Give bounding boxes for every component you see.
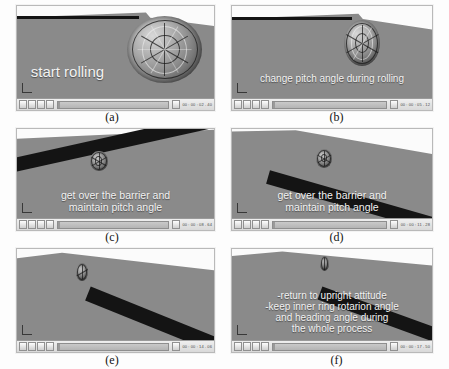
axis-triad-icon-f bbox=[237, 325, 247, 335]
panel-cell-b: change pitch angle during rolling 00 : 0… bbox=[224, 0, 449, 123]
player-controls-b[interactable]: 00 : 00 : 05 . 12 bbox=[232, 98, 432, 110]
simulation-panel-e[interactable]: 00 : 00 : 14 . 06 bbox=[16, 248, 215, 353]
panel-cell-e: 00 : 00 : 14 . 06 (e) bbox=[0, 243, 224, 369]
pause-button-f[interactable] bbox=[243, 342, 251, 351]
play-button-d[interactable] bbox=[234, 220, 242, 229]
progress-fill-c bbox=[58, 222, 60, 228]
player-controls-e[interactable]: 00 : 00 : 14 . 06 bbox=[17, 340, 214, 352]
play-button-e[interactable] bbox=[19, 342, 27, 351]
progress-fill-e bbox=[58, 344, 60, 350]
play-button-a[interactable] bbox=[19, 100, 27, 109]
viewport-c: get over the barrier and maintain pitch … bbox=[17, 129, 214, 219]
time-display-e: 00 : 00 : 14 . 06 bbox=[181, 344, 213, 350]
panel-cell-d: get over the barrier and maintain pitch … bbox=[224, 123, 449, 243]
simulation-panel-c[interactable]: get over the barrier and maintain pitch … bbox=[16, 128, 215, 231]
pause-button-d[interactable] bbox=[243, 220, 251, 229]
pause-button-e[interactable] bbox=[28, 342, 36, 351]
stop-button-f[interactable] bbox=[390, 342, 398, 351]
step-back-button-d[interactable] bbox=[252, 220, 260, 229]
progress-slider-a[interactable] bbox=[57, 101, 169, 109]
step-forward-button-b[interactable] bbox=[261, 100, 269, 109]
panel-cell-c: get over the barrier and maintain pitch … bbox=[0, 123, 224, 243]
simulation-panel-d[interactable]: get over the barrier and maintain pitch … bbox=[231, 128, 433, 231]
step-forward-button-e[interactable] bbox=[46, 342, 54, 351]
step-forward-button-d[interactable] bbox=[261, 220, 269, 229]
progress-fill-f bbox=[273, 344, 275, 350]
panel-grid: start rolling 00 : 00 : 02 . 40 (a) bbox=[0, 0, 449, 369]
axis-triad-icon-d bbox=[237, 203, 247, 213]
step-back-button-a[interactable] bbox=[37, 100, 45, 109]
time-display-b: 00 : 00 : 05 . 12 bbox=[399, 102, 431, 108]
stop-button-a[interactable] bbox=[172, 100, 180, 109]
viewport-f: -return to upright attitude -keep inner … bbox=[232, 249, 432, 341]
simulation-panel-f[interactable]: -return to upright attitude -keep inner … bbox=[231, 248, 433, 353]
step-back-button-e[interactable] bbox=[37, 342, 45, 351]
axis-triad-icon-c bbox=[22, 203, 32, 213]
step-back-button-f[interactable] bbox=[252, 342, 260, 351]
time-display-d: 00 : 00 : 11 . 28 bbox=[399, 222, 430, 228]
spherical-robot-f bbox=[320, 256, 329, 271]
pause-button-b[interactable] bbox=[243, 100, 251, 109]
axis-triad-icon-e bbox=[22, 325, 32, 335]
stop-button-d[interactable] bbox=[390, 220, 398, 229]
viewport-a: start rolling bbox=[17, 6, 214, 99]
pause-button-c[interactable] bbox=[28, 220, 36, 229]
progress-fill-b bbox=[273, 102, 275, 108]
step-forward-button-f[interactable] bbox=[261, 342, 269, 351]
pause-button-a[interactable] bbox=[28, 100, 36, 109]
player-controls-a[interactable]: 00 : 00 : 02 . 40 bbox=[17, 98, 214, 110]
step-back-button-b[interactable] bbox=[252, 100, 260, 109]
simulation-panel-b[interactable]: change pitch angle during rolling 00 : 0… bbox=[231, 5, 433, 111]
spherical-robot-c bbox=[90, 151, 108, 172]
progress-fill-a bbox=[58, 102, 60, 108]
simulation-panel-a[interactable]: start rolling 00 : 00 : 02 . 40 bbox=[16, 5, 215, 111]
viewport-d: get over the barrier and maintain pitch … bbox=[232, 129, 432, 219]
viewport-b: change pitch angle during rolling bbox=[232, 6, 432, 99]
spherical-robot-e bbox=[76, 263, 88, 281]
viewport-e bbox=[17, 249, 214, 341]
figure-panel-grid: start rolling 00 : 00 : 02 . 40 (a) bbox=[0, 0, 449, 369]
play-button-b[interactable] bbox=[234, 100, 242, 109]
progress-slider-f[interactable] bbox=[272, 343, 387, 351]
subcaption-f: (f) bbox=[224, 353, 449, 368]
progress-slider-b[interactable] bbox=[272, 101, 387, 109]
step-back-button-c[interactable] bbox=[37, 220, 45, 229]
progress-slider-e[interactable] bbox=[57, 343, 169, 351]
stop-button-b[interactable] bbox=[390, 100, 398, 109]
time-display-f: 00 : 00 : 17 . 50 bbox=[399, 344, 431, 350]
panel-cell-f: -return to upright attitude -keep inner … bbox=[224, 243, 449, 369]
axis-triad-icon-a bbox=[22, 83, 32, 93]
step-forward-button-c[interactable] bbox=[46, 220, 54, 229]
spherical-robot-b bbox=[344, 20, 380, 67]
stop-button-c[interactable] bbox=[172, 220, 180, 229]
barrier-a bbox=[17, 16, 139, 19]
progress-fill-d bbox=[273, 222, 275, 228]
time-display-c: 00 : 00 : 08 . 64 bbox=[181, 222, 213, 228]
play-button-f[interactable] bbox=[234, 342, 242, 351]
player-controls-f[interactable]: 00 : 00 : 17 . 50 bbox=[232, 340, 432, 352]
progress-slider-d[interactable] bbox=[272, 221, 387, 229]
spherical-robot-a bbox=[127, 16, 202, 83]
step-forward-button-a[interactable] bbox=[46, 100, 54, 109]
axis-triad-icon-b bbox=[237, 83, 247, 93]
panel-cell-a: start rolling 00 : 00 : 02 . 40 (a) bbox=[0, 0, 224, 123]
player-controls-c[interactable]: 00 : 00 : 08 . 64 bbox=[17, 218, 214, 230]
spherical-robot-d bbox=[316, 149, 332, 168]
time-display-a: 00 : 00 : 02 . 40 bbox=[181, 102, 213, 108]
player-controls-d[interactable]: 00 : 00 : 11 . 28 bbox=[232, 218, 432, 230]
subcaption-e: (e) bbox=[0, 353, 224, 368]
barrier-b bbox=[232, 17, 352, 20]
play-button-c[interactable] bbox=[19, 220, 27, 229]
progress-slider-c[interactable] bbox=[57, 221, 169, 229]
stop-button-e[interactable] bbox=[172, 342, 180, 351]
